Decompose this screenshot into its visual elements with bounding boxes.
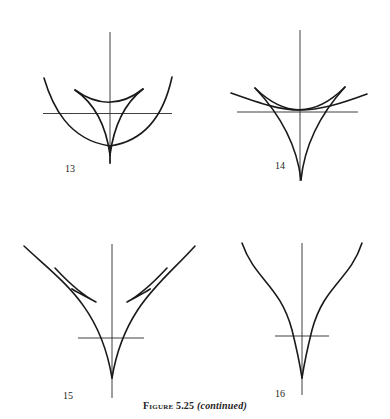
panel-16-left-branch: [242, 243, 302, 378]
panel-label-14: 14: [275, 160, 285, 171]
panel-13: [43, 32, 172, 164]
figure-5-25-svg: [0, 0, 390, 419]
panel-15: [24, 244, 195, 398]
panel-13-parabola: [44, 77, 172, 146]
panel-label-16: 16: [275, 388, 285, 399]
caption-label: Figure 5.25: [143, 400, 194, 411]
panel-14-tangent-curve: [231, 93, 367, 110]
panel-15-left-branch: [24, 246, 112, 378]
panel-16: [242, 243, 362, 395]
figure-caption: Figure 5.25 (continued): [0, 400, 390, 411]
panel-15-right-branch: [112, 246, 195, 378]
panel-13-deltoid-top-arc: [75, 89, 143, 102]
caption-note: (continued): [197, 400, 247, 411]
panel-14: [231, 30, 367, 181]
panel-15-left-loop: [55, 268, 96, 302]
panel-16-right-branch: [302, 243, 362, 378]
panel-label-13: 13: [65, 163, 75, 174]
panel-14-deltoid-right-arc: [301, 87, 345, 180]
